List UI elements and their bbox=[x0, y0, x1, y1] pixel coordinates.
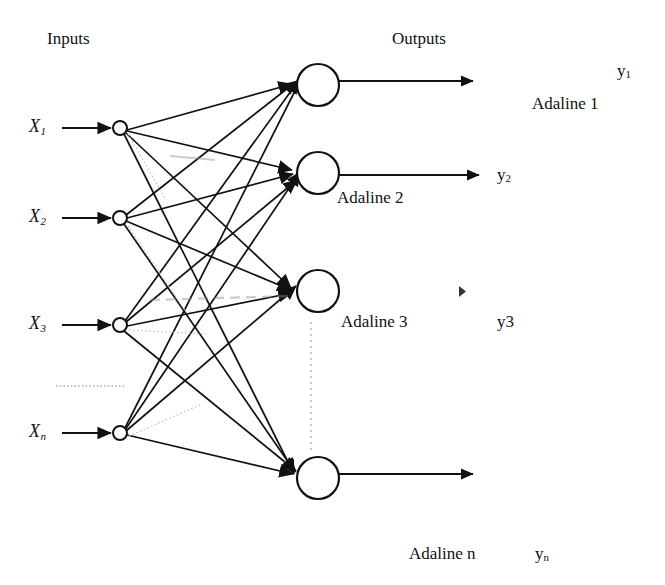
edge-xn-an bbox=[127, 435, 293, 474]
diagram-canvas: Inputs Outputs X1 X2 X3 Xn Adaline 1 Ada… bbox=[0, 0, 665, 585]
output-arrow-y3-fragment bbox=[459, 286, 466, 297]
network-graph-svg bbox=[0, 0, 665, 585]
input-label-x3-sub: 3 bbox=[41, 322, 47, 334]
adaline-node-3 bbox=[297, 270, 339, 312]
output-arrows bbox=[339, 81, 479, 474]
input-label-x1: X1 bbox=[29, 117, 46, 135]
inputs-header: Inputs bbox=[47, 30, 90, 47]
adaline-node-2 bbox=[297, 152, 339, 194]
adaline-label-3: Adaline 3 bbox=[341, 313, 408, 330]
artifact-stroke-a bbox=[128, 134, 166, 200]
edge-x2-a3 bbox=[126, 221, 291, 290]
input-feed-arrows bbox=[62, 128, 111, 433]
weight-edges bbox=[124, 79, 301, 474]
edge-x3-an bbox=[124, 331, 296, 471]
input-label-x2: X2 bbox=[29, 207, 46, 225]
edge-x1-a3 bbox=[126, 133, 291, 288]
edge-x1-an bbox=[124, 134, 294, 474]
input-label-xn-sub: n bbox=[41, 430, 47, 442]
adaline-node-1 bbox=[297, 64, 339, 106]
output-label-y2-base: y bbox=[497, 165, 506, 184]
adaline-label-n: Adaline n bbox=[409, 545, 476, 562]
output-label-y1-base: y bbox=[617, 61, 626, 80]
input-node-x1 bbox=[113, 121, 127, 135]
output-label-yn-base: y bbox=[535, 544, 544, 563]
output-label-y2: y2 bbox=[497, 166, 511, 183]
input-label-x1-sub: 1 bbox=[41, 125, 47, 137]
input-node-x2 bbox=[113, 211, 127, 225]
output-label-y3-base: y bbox=[497, 312, 506, 331]
input-node-xn bbox=[113, 426, 127, 440]
input-label-xn: Xn bbox=[29, 422, 46, 440]
input-node-x3 bbox=[113, 318, 127, 332]
artifact-stroke-f bbox=[170, 156, 215, 160]
edge-xn-a1 bbox=[125, 79, 301, 428]
input-label-x3: X3 bbox=[29, 314, 46, 332]
input-label-x2-sub: 2 bbox=[41, 215, 47, 227]
output-label-y1-sub: 1 bbox=[626, 68, 632, 80]
input-label-x2-base: X bbox=[29, 206, 40, 226]
adaline-label-2: Adaline 2 bbox=[337, 189, 404, 206]
outputs-header: Outputs bbox=[392, 30, 446, 47]
output-label-y3-sub: 3 bbox=[506, 312, 515, 331]
adaline-label-1: Adaline 1 bbox=[532, 95, 599, 112]
output-label-yn-sub: n bbox=[544, 551, 550, 563]
adaline-node-n bbox=[297, 457, 339, 499]
output-label-y3: y3 bbox=[497, 313, 514, 330]
output-label-y1: y1 bbox=[617, 62, 631, 79]
input-label-x3-base: X bbox=[29, 313, 40, 333]
output-label-yn: yn bbox=[535, 545, 549, 562]
adaline-nodes bbox=[297, 64, 339, 499]
input-label-xn-base: X bbox=[29, 421, 40, 441]
input-label-x1-base: X bbox=[29, 116, 40, 136]
artifact-stroke-c bbox=[129, 330, 206, 334]
output-label-y2-sub: 2 bbox=[506, 172, 512, 184]
input-nodes bbox=[113, 121, 127, 440]
